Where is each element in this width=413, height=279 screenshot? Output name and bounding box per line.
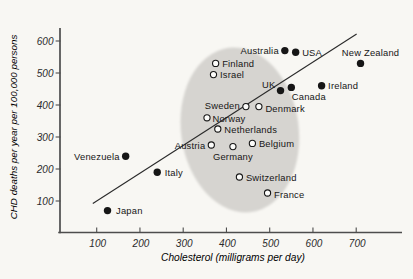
chd-cholesterol-scatter-chart: 100200300400500600700100200300400500600 …: [0, 0, 413, 279]
y-tick-label-200: 200: [36, 164, 54, 175]
y-tick-label-500: 500: [37, 68, 54, 79]
point-france: [264, 190, 270, 196]
point-label-venezuela: Venezuela: [74, 151, 120, 162]
point-austria: [208, 142, 214, 148]
point-label-denmark: Denmark: [265, 103, 305, 114]
point-norway: [204, 115, 210, 121]
point-usa: [292, 49, 299, 56]
scatter-plot-figure: 100200300400500600700100200300400500600 …: [0, 0, 413, 279]
x-tick-label-600: 600: [306, 238, 323, 249]
point-germany: [230, 144, 236, 150]
point-label-germany: Germany: [213, 151, 253, 162]
point-italy: [154, 169, 161, 176]
point-label-belgium: Belgium: [259, 138, 294, 149]
point-label-france: France: [274, 189, 304, 200]
point-ireland: [318, 82, 325, 89]
point-new-zealand: [357, 60, 364, 67]
point-label-ireland: Ireland: [328, 80, 358, 91]
point-label-netherlands: Netherlands: [224, 124, 277, 135]
point-japan: [104, 207, 111, 214]
point-label-austria: Austria: [175, 140, 206, 151]
x-tick-label-300: 300: [176, 238, 193, 249]
point-label-japan: Japan: [116, 205, 143, 216]
point-netherlands: [215, 126, 221, 132]
point-israel: [210, 72, 216, 78]
point-belgium: [249, 140, 255, 146]
point-finland: [213, 60, 219, 66]
x-axis-title: Cholesterol (milligrams per day): [161, 252, 305, 263]
y-tick-label-300: 300: [37, 132, 54, 143]
point-uk: [277, 87, 284, 94]
point-sweden: [243, 104, 249, 110]
point-label-canada: Canada: [292, 91, 327, 102]
point-venezuela: [122, 153, 129, 160]
point-canada: [288, 84, 295, 91]
point-label-israel: Israel: [220, 69, 244, 80]
point-label-switzerland: Switzerland: [246, 172, 297, 183]
point-label-new-zealand: New Zealand: [342, 47, 399, 58]
point-label-australia: Australia: [241, 45, 280, 56]
x-tick-label-100: 100: [89, 238, 106, 249]
point-label-finland: Finland: [222, 58, 254, 69]
point-label-uk: UK: [262, 79, 276, 90]
point-switzerland: [236, 174, 242, 180]
point-label-italy: Italy: [165, 167, 183, 178]
y-axis-title: CHD deaths per year per 100,000 persons: [8, 35, 19, 220]
point-denmark: [256, 104, 262, 110]
x-tick-label-500: 500: [262, 238, 279, 249]
x-tick-label-400: 400: [219, 238, 236, 249]
y-tick-label-100: 100: [37, 196, 54, 207]
y-tick-label-400: 400: [37, 100, 54, 111]
point-label-usa: USA: [302, 47, 322, 58]
x-tick-label-200: 200: [132, 238, 150, 249]
point-label-sweden: Sweden: [205, 100, 240, 111]
point-australia: [281, 47, 288, 54]
x-tick-label-700: 700: [349, 238, 366, 249]
y-tick-label-600: 600: [37, 36, 54, 47]
